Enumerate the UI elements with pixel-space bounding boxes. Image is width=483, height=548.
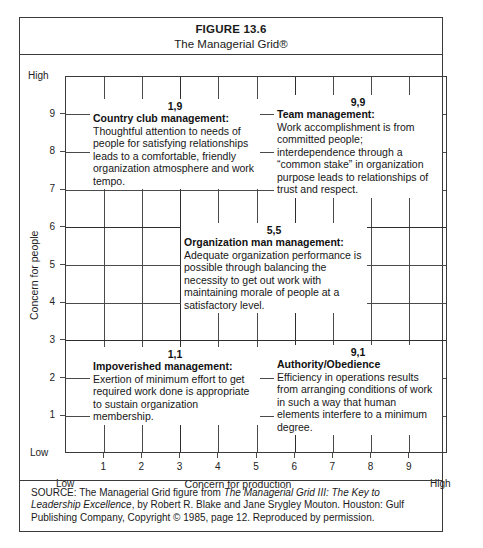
grid-cell-authority-obedience: 9,1 Authority/Obedience Efficiency in op…	[274, 345, 442, 435]
grid-cell-country-club: 1,9 Country club management: Thoughtful …	[90, 99, 260, 189]
cell-body: Work accomplishment is from committed pe…	[277, 121, 439, 197]
y-tick-label-9: 9	[33, 108, 55, 119]
x-tick-label-8: 8	[361, 461, 381, 472]
x-tick-mark-8	[370, 453, 371, 458]
y-tick-label-8: 8	[33, 145, 55, 156]
cell-heading: Organization man management:	[184, 236, 364, 249]
cell-body: Efficiency in operations results from ar…	[277, 371, 439, 434]
cell-coord: 1,9	[93, 100, 257, 112]
cell-body: Adequate organization performance is pos…	[184, 249, 364, 312]
x-tick-mark-9	[408, 453, 409, 458]
x-tick-label-9: 9	[399, 461, 419, 472]
x-tick-mark-1	[103, 453, 104, 458]
source-note-block: SOURCE: The Managerial Grid figure from …	[20, 480, 442, 531]
grid-cell-impoverished: 1,1 Impoverished management: Exertion of…	[90, 347, 260, 425]
cell-body: Exertion of minimum effort to get requir…	[93, 373, 257, 423]
cell-coord: 9,9	[277, 96, 439, 108]
x-tick-mark-5	[256, 453, 257, 458]
y-axis-high-label: High	[28, 70, 49, 81]
figure-container: FIGURE 13.6 The Managerial Grid® Concern…	[19, 17, 443, 532]
cell-body: Thoughtful attention to needs of people …	[93, 125, 257, 188]
x-tick-label-6: 6	[284, 461, 304, 472]
x-tick-mark-4	[217, 453, 218, 458]
x-tick-mark-2	[141, 453, 142, 458]
cell-heading: Impoverished management:	[93, 360, 257, 373]
grid-cell-team-management: 9,9 Team management: Work accomplishment…	[274, 95, 442, 198]
x-tick-label-1: 1	[93, 461, 113, 472]
x-tick-label-4: 4	[208, 461, 228, 472]
cell-coord: 1,1	[93, 348, 257, 360]
cell-coord: 5,5	[184, 224, 364, 236]
figure-title: The Managerial Grid®	[20, 37, 442, 51]
figure-number: FIGURE 13.6	[20, 23, 442, 36]
figure-title-block: FIGURE 13.6 The Managerial Grid®	[20, 18, 442, 55]
cell-heading: Authority/Obedience	[277, 358, 439, 371]
chart-region: Concern for people High Low Low High Con…	[20, 55, 442, 531]
source-italic-title: The Managerial Grid III: The Key to Lead…	[31, 487, 380, 510]
y-tick-label-6: 6	[33, 221, 55, 232]
y-tick-label-7: 7	[33, 183, 55, 194]
y-tick-label-2: 2	[33, 372, 55, 383]
cell-heading: Team management:	[277, 108, 439, 121]
x-tick-label-3: 3	[170, 461, 190, 472]
x-tick-mark-6	[294, 453, 295, 458]
y-axis-low-label: Low	[30, 447, 48, 458]
y-tick-label-1: 1	[33, 409, 55, 420]
x-tick-label-2: 2	[131, 461, 151, 472]
cell-heading: Country club management:	[93, 112, 257, 125]
source-note-text: SOURCE: The Managerial Grid figure from …	[31, 487, 431, 524]
x-tick-label-7: 7	[322, 461, 342, 472]
x-tick-mark-3	[179, 453, 180, 458]
grid-plot-area: 1,9 Country club management: Thoughtful …	[65, 76, 447, 453]
y-tick-label-5: 5	[33, 259, 55, 270]
grid-cell-organization-man: 5,5 Organization man management: Adequat…	[181, 223, 367, 313]
x-tick-label-5: 5	[246, 461, 266, 472]
y-tick-label-4: 4	[33, 296, 55, 307]
x-tick-mark-7	[332, 453, 333, 458]
y-tick-label-3: 3	[33, 334, 55, 345]
cell-coord: 9,1	[277, 346, 439, 358]
gridline-horizontal-3	[66, 340, 446, 341]
